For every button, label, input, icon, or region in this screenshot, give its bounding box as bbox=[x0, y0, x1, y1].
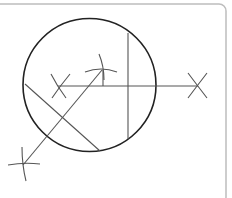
construction-diagram bbox=[0, 0, 232, 198]
construction-arcs bbox=[8, 54, 207, 181]
construction-lines bbox=[23, 33, 198, 165]
diagram-canvas bbox=[0, 0, 232, 198]
frame-border bbox=[0, 4, 226, 198]
